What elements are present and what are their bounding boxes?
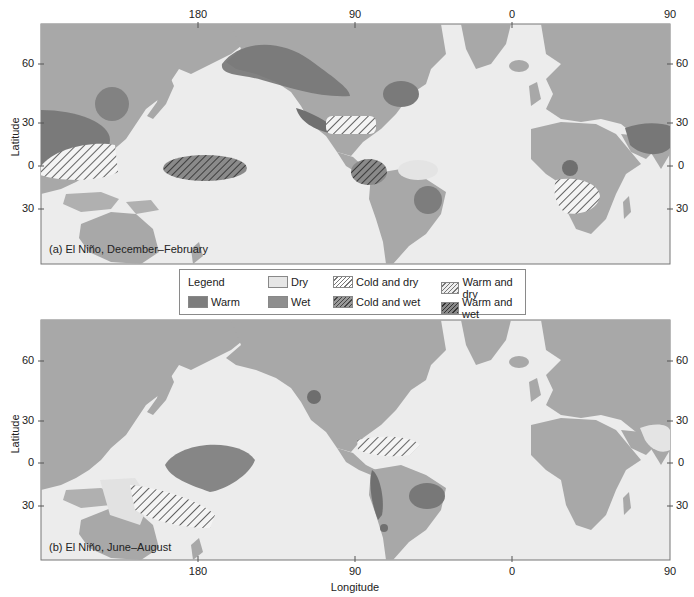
- b-left-tick-60: 60: [22, 354, 34, 366]
- bottom-tick-90w: 90: [349, 565, 361, 577]
- warm-wet-swatch-icon: [441, 302, 459, 314]
- b-right-tick-60: 60: [676, 354, 688, 366]
- a-right-tick-30: 30: [676, 116, 688, 128]
- warm-swatch-icon: [188, 296, 208, 308]
- b-right-tick-30: 30: [676, 414, 688, 426]
- warm-dry-swatch-icon: [441, 282, 459, 294]
- legend-item-dry: Dry: [268, 276, 308, 288]
- legend-item-wet: Wet: [268, 296, 310, 308]
- panel-b-caption: (b) El Niño, June–August: [49, 541, 171, 553]
- bottom-tick-90e: 90: [664, 565, 676, 577]
- top-tick-180: 180: [189, 8, 207, 20]
- b-left-tick-30s: 30: [22, 499, 34, 511]
- panel-b-map: [41, 320, 670, 560]
- y-axis-label-b: Latitude: [9, 409, 21, 459]
- legend-item-warm-wet: Warm and wet: [441, 296, 525, 320]
- region-warm-wet-peru: [351, 159, 387, 185]
- region-wet-east-africa: [562, 160, 578, 176]
- b-left-tick-0: 0: [28, 456, 34, 468]
- region-wet-south-chile: [380, 524, 388, 532]
- region-cold-wet-gulf: [326, 116, 376, 134]
- region-wet-japan: [95, 87, 129, 121]
- bottom-tick-0: 0: [509, 565, 515, 577]
- x-axis-label: Longitude: [331, 581, 379, 593]
- region-dry-brazil: [398, 160, 438, 180]
- panel-a-caption: (a) El Niño, December–February: [49, 243, 208, 255]
- top-tick-90w: 90: [349, 8, 361, 20]
- region-wet-western-us: [307, 390, 321, 404]
- dry-swatch-icon: [268, 276, 288, 288]
- a-right-tick-30s: 30: [676, 202, 688, 214]
- a-right-tick-60: 60: [676, 57, 688, 69]
- region-wet-ne-us: [383, 81, 419, 107]
- region-warm-wet-pacific: [163, 155, 247, 181]
- a-left-tick-60: 60: [22, 57, 34, 69]
- top-tick-90e: 90: [664, 8, 676, 20]
- panel-a-map: [0, 24, 670, 264]
- y-axis-label-a: Latitude: [9, 112, 21, 162]
- cold-dry-swatch-icon: [333, 276, 353, 288]
- a-left-tick-30s: 30: [22, 202, 34, 214]
- legend-item-cold-wet: Cold and wet: [333, 296, 420, 308]
- legend-item-warm: Warm: [188, 296, 240, 308]
- cold-wet-swatch-icon: [333, 296, 353, 308]
- a-left-tick-30: 30: [22, 116, 34, 128]
- a-right-tick-0: 0: [678, 159, 684, 171]
- a-left-tick-0: 0: [28, 159, 34, 171]
- legend: Legend Dry Cold and dry Warm and dry War…: [179, 269, 526, 315]
- top-tick-0: 0: [509, 8, 515, 20]
- bottom-tick-180: 180: [189, 565, 207, 577]
- legend-title: Legend: [188, 276, 225, 288]
- region-wet-se-south-america: [414, 186, 442, 214]
- legend-item-cold-dry: Cold and dry: [333, 276, 418, 288]
- region-wet-se-south-america: [409, 483, 445, 509]
- b-right-tick-0: 0: [678, 456, 684, 468]
- b-left-tick-30: 30: [22, 414, 34, 426]
- b-right-tick-30s: 30: [676, 499, 688, 511]
- wet-swatch-icon: [268, 296, 288, 308]
